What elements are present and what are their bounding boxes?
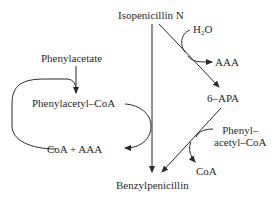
- node-6-apa: 6–APA: [207, 92, 239, 104]
- arrow-coa-output: [190, 142, 195, 162]
- node-isopenicillin-n: Isopenicillin N: [118, 9, 184, 21]
- node-coa-right: CoA: [196, 165, 217, 177]
- h2o-o: O: [204, 23, 212, 35]
- arrow-phenylacetyl-coa-input: [196, 129, 213, 137]
- phenylacetyl-coa-right-line1: Phenyl–: [214, 124, 267, 136]
- node-phenylacetyl-coa: Phenylacetyl–CoA: [32, 97, 115, 109]
- node-benzylpenicillin: Benzylpenicillin: [116, 179, 189, 191]
- node-phenylacetyl-coa-right: Phenyl– acetyl–CoA: [214, 124, 267, 148]
- node-phenylacetate: Phenylacetate: [41, 52, 102, 64]
- pathway-diagram: Isopenicillin N H2O AAA 6–APA Phenylacet…: [0, 0, 279, 199]
- h2o-h: H: [193, 23, 201, 35]
- arrow-recycle-loop: [12, 79, 76, 149]
- arrow-phenylacetyl-coa-to-coa-aaa: [125, 104, 151, 148]
- node-coa-plus-aaa: CoA + AAA: [47, 143, 102, 155]
- arrow-h2o-input: [182, 30, 190, 52]
- arrow-6apa-to-benzylpenicillin: [162, 108, 221, 172]
- arrow-aaa-output: [188, 56, 212, 62]
- phenylacetyl-coa-right-line2: acetyl–CoA: [214, 136, 267, 148]
- node-aaa-top: AAA: [215, 56, 239, 68]
- node-h2o: H2O: [193, 23, 212, 35]
